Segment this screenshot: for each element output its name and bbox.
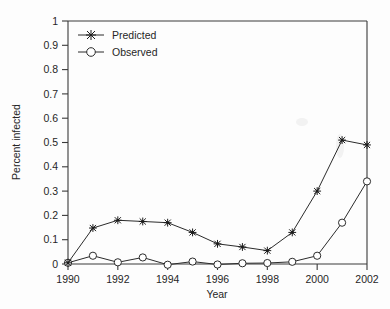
x-tick-label: 2000: [305, 273, 329, 285]
chart-container: 00.10.20.30.40.50.60.70.80.91 1990199219…: [0, 0, 390, 309]
x-tick-label: 1992: [106, 273, 130, 285]
data-point-marker-circle-icon: [164, 261, 171, 268]
y-tick-label: 0: [52, 258, 58, 270]
data-point-marker-circle-icon: [214, 261, 221, 268]
y-tick-label: 1: [52, 15, 58, 27]
y-tick-label: 0.3: [43, 185, 58, 197]
data-point-marker-circle-icon: [264, 259, 271, 266]
data-point-marker-circle-icon: [314, 252, 321, 259]
x-tick-label: 1998: [256, 273, 280, 285]
data-point-marker-star-icon: [288, 229, 296, 237]
data-point-marker-star-icon: [114, 216, 122, 224]
data-point-marker-star-icon: [164, 219, 172, 227]
legend-label-observed: Observed: [112, 46, 158, 58]
x-tick-label: 2002: [355, 273, 379, 285]
data-point-marker-circle-icon: [139, 254, 146, 261]
legend-marker-circle-icon: [87, 48, 96, 57]
data-point-marker-star-icon: [338, 136, 346, 144]
y-axis-title: Percent infected: [10, 104, 22, 180]
scan-artifact: [296, 118, 308, 126]
legend-marker-star-icon: [86, 30, 96, 40]
legend-label-predicted: Predicted: [112, 29, 157, 41]
data-point-marker-star-icon: [239, 243, 247, 251]
data-point-marker-star-icon: [89, 224, 97, 232]
y-tick-label: 0.8: [43, 63, 58, 75]
y-tick-label: 0.9: [43, 39, 58, 51]
line-chart: 00.10.20.30.40.50.60.70.80.91 1990199219…: [0, 0, 390, 309]
data-point-marker-circle-icon: [338, 219, 345, 226]
data-point-marker-circle-icon: [289, 258, 296, 265]
data-point-marker-star-icon: [64, 259, 72, 267]
y-tick-label: 0.6: [43, 112, 58, 124]
data-point-marker-star-icon: [139, 218, 147, 226]
data-point-marker-star-icon: [189, 229, 197, 237]
data-point-marker-star-icon: [263, 247, 271, 255]
y-tick-label: 0.1: [43, 233, 58, 245]
x-tick-label: 1994: [156, 273, 180, 285]
data-point-marker-star-icon: [214, 240, 222, 248]
y-tick-label: 0.5: [43, 136, 58, 148]
data-point-marker-circle-icon: [239, 260, 246, 267]
data-point-marker-star-icon: [313, 187, 321, 195]
data-point-marker-circle-icon: [363, 178, 370, 185]
data-point-marker-circle-icon: [189, 258, 196, 265]
x-tick-label: 1996: [206, 273, 230, 285]
y-tick-label: 0.4: [43, 160, 58, 172]
data-point-marker-circle-icon: [89, 252, 96, 259]
data-point-marker-star-icon: [363, 141, 371, 149]
x-axis-title: Year: [206, 288, 228, 300]
y-tick-label: 0.7: [43, 88, 58, 100]
x-tick-label: 1990: [56, 273, 80, 285]
y-tick-label: 0.2: [43, 209, 58, 221]
data-point-marker-circle-icon: [114, 259, 121, 266]
